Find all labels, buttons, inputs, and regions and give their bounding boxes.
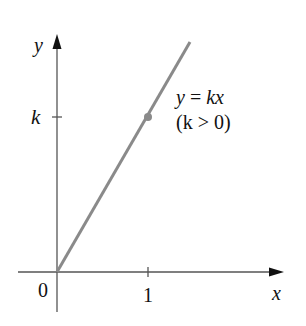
line-y-equals-kx [57, 42, 190, 272]
linear-function-diagram: y x 0 1 k y = kx (k > 0) [0, 0, 306, 326]
equation-equals: = [185, 86, 206, 108]
y-axis-arrow-icon [53, 34, 62, 49]
origin-label: 0 [38, 279, 48, 301]
equation-label: y = kx [174, 86, 224, 109]
x-axis-arrow-icon [269, 268, 284, 277]
y-axis-label: y [32, 34, 43, 57]
equation-y: y [174, 86, 185, 109]
point-1-k [144, 113, 152, 121]
x-tick-label: 1 [143, 284, 153, 306]
condition-label: (k > 0) [176, 111, 231, 134]
x-axis-label: x [271, 282, 281, 304]
y-tick-label: k [31, 105, 41, 129]
equation-rhs: kx [206, 86, 224, 108]
